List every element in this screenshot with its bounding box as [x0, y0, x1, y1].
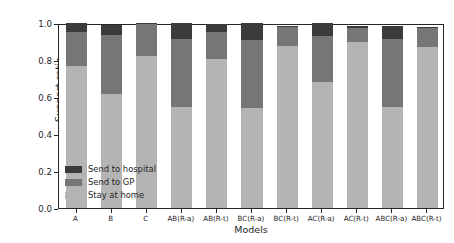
legend-label: Send to GP [88, 177, 134, 187]
legend-color-swatch [65, 192, 82, 199]
legend-color-swatch [65, 166, 82, 173]
bar-segment [382, 107, 403, 208]
stacked-bar [206, 23, 227, 208]
x-tick-mark [391, 209, 392, 213]
stacked-bar [417, 23, 438, 208]
bar-segment [171, 107, 192, 208]
x-tick-label: BC(R-t) [273, 214, 298, 223]
x-tick-label: AB(R-a) [167, 214, 194, 223]
bar-segment [136, 24, 157, 56]
bar-segment [347, 28, 368, 42]
bar-segment [241, 108, 262, 208]
legend-item: Send to hospital [65, 163, 156, 175]
y-tick-label: 1.0 [24, 19, 52, 29]
bar-segment [312, 82, 333, 208]
x-tick-label: AC(R-a) [308, 214, 335, 223]
stacked-bar [171, 23, 192, 208]
legend-label: Stay at home [88, 190, 144, 200]
y-tick-mark [54, 209, 58, 210]
y-tick-label: 0.8 [24, 56, 52, 66]
legend-item: Stay at home [65, 189, 156, 201]
x-tick-mark [181, 209, 182, 213]
x-tick-mark [426, 209, 427, 213]
bar-segment [171, 39, 192, 107]
x-tick-mark [321, 209, 322, 213]
x-tick-label: B [108, 214, 113, 223]
x-tick-mark [356, 209, 357, 213]
bar-segment [417, 27, 438, 28]
bar-segment [206, 59, 227, 208]
x-tick-mark [111, 209, 112, 213]
x-tick-label: AB(R-t) [203, 214, 228, 223]
legend-item: Send to GP [65, 176, 156, 188]
bar-segment [241, 23, 262, 40]
bar-segment [101, 35, 122, 94]
bar-segment [277, 27, 298, 46]
bar-segment [206, 32, 227, 59]
bar-segment [312, 36, 333, 82]
bar-segment [277, 46, 298, 208]
y-tick-label: 0.2 [24, 167, 52, 177]
x-tick-mark [216, 209, 217, 213]
bar-segment [241, 40, 262, 108]
x-axis-label: Models [58, 224, 444, 235]
stacked-bar [382, 23, 403, 208]
legend-label: Send to hospital [88, 164, 156, 174]
bar-segment [66, 23, 87, 32]
x-tick-mark [251, 209, 252, 213]
x-tick-label: ABC(R-t) [411, 214, 441, 223]
stacked-bar [347, 23, 368, 208]
x-tick-label: AC(R-t) [344, 214, 369, 223]
x-tick-label: BC(R-a) [238, 214, 265, 223]
x-tick-label: C [143, 214, 148, 223]
x-tick-label: A [73, 214, 78, 223]
bar-segment [206, 24, 227, 32]
bar-segment [171, 23, 192, 39]
bar-segment [347, 42, 368, 209]
bar-segment [101, 25, 122, 35]
bar-segment [66, 32, 87, 65]
bar-segment [136, 23, 157, 24]
x-tick-label: ABC(R-a) [376, 214, 408, 223]
x-tick-mark [286, 209, 287, 213]
x-tick-mark [76, 209, 77, 213]
bar-segment [382, 26, 403, 39]
legend-color-swatch [65, 179, 82, 186]
y-tick-label: 0.6 [24, 93, 52, 103]
bar-segment [417, 47, 438, 208]
stacked-bar [277, 23, 298, 208]
bar-segment [347, 26, 368, 28]
chart-legend: Send to hospitalSend to GPStay at home [63, 162, 158, 203]
x-tick-mark [146, 209, 147, 213]
bar-segment [382, 39, 403, 107]
y-tick-label: 0.0 [24, 204, 52, 214]
stacked-bar-chart-figure: Support ratio 0.00.20.40.60.81.0 ABCAB(R… [0, 0, 454, 243]
bar-segment [277, 26, 298, 27]
stacked-bar [312, 23, 333, 208]
bar-segment [417, 28, 438, 47]
bar-segment [312, 23, 333, 36]
stacked-bar [241, 23, 262, 208]
y-tick-label: 0.4 [24, 130, 52, 140]
